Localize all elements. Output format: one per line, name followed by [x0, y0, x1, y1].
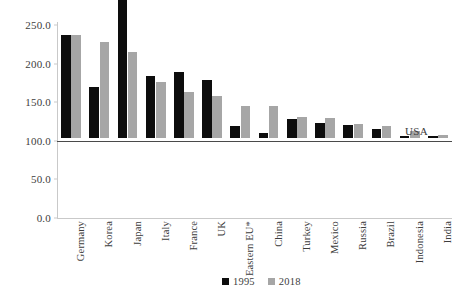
bar-group — [61, 0, 81, 138]
x-tick-label-korea: Korea — [103, 221, 114, 247]
x-tick-label-japan: Japan — [132, 221, 143, 246]
x-tick-label-russia: Russia — [357, 221, 368, 250]
x-tick-label-turkey: Turkey — [301, 221, 312, 252]
bar-2018 — [438, 135, 448, 138]
y-tick-label-50: 50.0 — [31, 173, 51, 185]
bar-group — [259, 0, 279, 138]
bar-2018 — [297, 117, 307, 138]
x-tick-label-italy: Italy — [160, 221, 171, 241]
bar-2018 — [100, 42, 110, 139]
bar-1995 — [372, 129, 382, 138]
usa-reference-line — [57, 141, 452, 142]
x-tick-label-france: France — [188, 221, 199, 250]
x-tick-label-uk: UK — [216, 221, 227, 236]
bar-1995 — [287, 119, 297, 138]
bar-2018 — [212, 96, 222, 138]
legend-item-2018: 2018 — [268, 276, 301, 287]
bar-1995 — [174, 72, 184, 138]
bar-1995 — [146, 76, 156, 138]
x-tick-label-germany: Germany — [75, 221, 86, 261]
usa-reference-label: USA — [405, 125, 428, 137]
legend-label-2018: 2018 — [279, 276, 301, 287]
bar-chart: 0.050.0100.0150.0200.0250.0 USA GermanyK… — [0, 0, 456, 299]
bar-2018 — [71, 35, 81, 138]
y-tick-label-0: 0.0 — [37, 212, 51, 224]
bar-1995 — [343, 125, 353, 138]
bar-2018 — [269, 106, 279, 138]
bar-group — [400, 0, 420, 138]
bar-2018 — [128, 52, 138, 138]
bar-1995 — [428, 136, 438, 138]
bar-1995 — [202, 80, 212, 138]
x-tick-label-china: China — [273, 221, 284, 247]
bar-1995 — [259, 133, 269, 138]
chart-legend: 19952018 — [222, 276, 301, 287]
y-tick-label-150: 150.0 — [25, 96, 51, 108]
bar-2018 — [184, 92, 194, 138]
bar-group — [202, 0, 222, 138]
bar-2018 — [241, 106, 251, 138]
bar-group — [287, 0, 307, 138]
bar-group — [372, 0, 392, 138]
bar-group — [230, 0, 250, 138]
x-tick-label-brazil: Brazil — [385, 221, 396, 248]
y-tick-label-200: 200.0 — [25, 58, 51, 70]
y-tick-label-250: 250.0 — [25, 19, 51, 31]
x-tick-label-eastern-eu: Eastern EU* — [244, 221, 255, 276]
bar-2018 — [354, 124, 364, 138]
bar-1995 — [230, 126, 240, 138]
legend-swatch-1995 — [222, 278, 229, 285]
y-tick-label-100: 100.0 — [25, 135, 51, 147]
x-tick-label-india: India — [442, 221, 453, 243]
bar-group — [315, 0, 335, 138]
bar-group — [343, 0, 363, 138]
bar-1995 — [118, 0, 128, 138]
bar-group — [118, 0, 138, 138]
bar-group — [428, 0, 448, 138]
legend-label-1995: 1995 — [233, 276, 255, 287]
bar-group — [146, 0, 166, 138]
bar-1995 — [89, 87, 99, 138]
bar-group — [89, 0, 109, 138]
bar-1995 — [315, 123, 325, 138]
bar-2018 — [382, 126, 392, 138]
x-tick-label-mexico: Mexico — [329, 221, 340, 254]
bars-layer — [57, 0, 452, 219]
bar-1995 — [61, 35, 71, 138]
bar-2018 — [156, 82, 166, 138]
bar-2018 — [325, 118, 335, 138]
legend-item-1995: 1995 — [222, 276, 255, 287]
legend-swatch-2018 — [268, 278, 275, 285]
x-tick-label-indonesia: Indonesia — [414, 221, 425, 263]
bar-group — [174, 0, 194, 138]
